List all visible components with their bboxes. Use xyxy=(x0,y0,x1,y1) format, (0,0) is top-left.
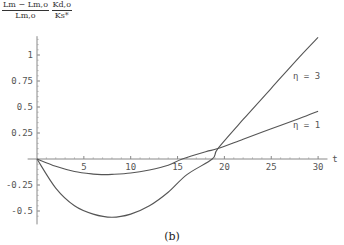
x-tick-label: 25 xyxy=(266,162,277,172)
x-tick-label: 20 xyxy=(219,162,230,172)
y-tick-label: 0.75 xyxy=(11,76,33,86)
annotation-eta-3: η = 3 xyxy=(293,71,320,81)
plot-area: 51015202530-0.5-0.250.250.50.751tη = 3η … xyxy=(0,0,344,245)
y-tick-label: 0.5 xyxy=(17,102,33,112)
x-tick-label: 15 xyxy=(172,162,183,172)
y-tick-label: -0.25 xyxy=(6,180,33,190)
y-tick-label: 0.25 xyxy=(11,128,33,138)
y-tick-label: 1 xyxy=(28,50,33,60)
x-tick-label: 30 xyxy=(313,162,324,172)
annotation-eta-1: η = 1 xyxy=(293,120,320,130)
x-tick-label: 10 xyxy=(125,162,136,172)
x-axis-label: t xyxy=(332,154,337,164)
figure-caption: (b) xyxy=(0,230,344,243)
y-tick-label: -0.5 xyxy=(11,206,33,216)
x-tick-label: 5 xyxy=(81,162,86,172)
